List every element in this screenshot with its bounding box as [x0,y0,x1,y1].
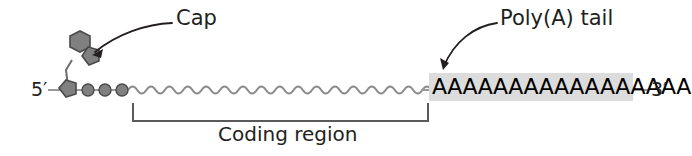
cap-arrow-curve [95,23,172,52]
mrna-structure-figure: AAAAAAAAAAAAAAAAA Cap Poly(A) tail Codin… [0,0,692,156]
coding-region-strand [128,87,432,94]
five-prime-label: 5′ [31,80,47,99]
coding-region-label: Coding region [218,124,357,144]
first-nucleotide-pentagon-icon [59,80,76,97]
phosphate-circle-1-icon [82,84,94,96]
phosphate-circle-3-icon [116,84,128,96]
phosphate-circle-2-icon [99,84,111,96]
cap-label: Cap [176,8,217,29]
three-prime-label: 3′ [651,80,667,99]
polya-arrow-curve [444,23,497,66]
coding-region-bracket [133,104,428,121]
polya-tail-label: Poly(A) tail [500,8,613,29]
